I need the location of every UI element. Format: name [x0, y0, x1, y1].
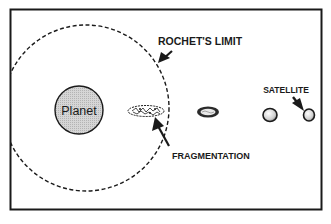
stretched-satellite: [197, 107, 219, 118]
planet-label: Planet: [61, 104, 97, 118]
fragmenting-satellite: [128, 106, 164, 117]
satellite-approaching: [304, 109, 315, 121]
roche-limit-label: ROCHET'S LIMIT: [158, 35, 243, 47]
satellite-label: SATELLITE: [263, 85, 309, 95]
satellite-intact: [263, 109, 277, 122]
planet: Planet: [55, 86, 103, 134]
fragmentation-label: FRAGMENTATION: [172, 151, 250, 161]
roche-limit-diagram: Planet FRAGMENTATION: [0, 0, 331, 224]
